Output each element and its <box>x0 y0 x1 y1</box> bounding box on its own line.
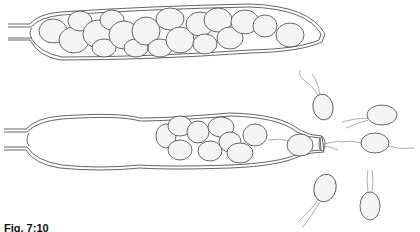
figure-caption: Fig. 7:10 <box>4 222 49 232</box>
released-zoospores <box>298 70 414 228</box>
zoospore-2 <box>342 105 397 128</box>
figure-canvas: Fig. 7:10 <box>0 0 420 232</box>
upper-sporangium <box>8 4 325 60</box>
zoospore-5 <box>360 170 380 220</box>
zoospore-4 <box>298 172 339 228</box>
sporangia-illustration <box>0 0 420 232</box>
lower-sporangium <box>4 113 325 170</box>
zoospore-3 <box>340 133 414 153</box>
zoospore-1 <box>300 70 336 122</box>
